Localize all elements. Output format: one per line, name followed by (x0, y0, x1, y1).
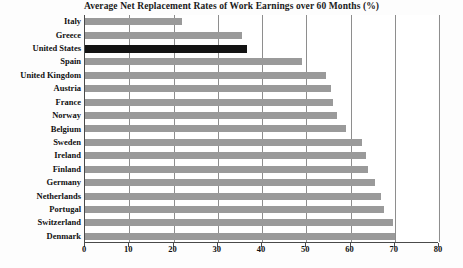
bar-row (85, 69, 438, 82)
x-tick-label: 50 (301, 244, 310, 254)
bar-row (85, 95, 438, 108)
category-label: Switzerland (38, 218, 81, 227)
x-tick-label: 70 (390, 244, 399, 254)
gridline-80 (439, 15, 440, 242)
category-label: France (56, 98, 82, 107)
bar (85, 193, 381, 200)
x-tick-label: 20 (168, 244, 177, 254)
bar-row (85, 216, 438, 229)
bar-row (85, 109, 438, 122)
x-tick-label: 0 (82, 244, 86, 254)
bar-row (85, 189, 438, 202)
bar (85, 166, 368, 173)
bar (85, 206, 384, 213)
bar-row (85, 163, 438, 176)
category-label: Italy (64, 17, 81, 26)
category-label: United Kingdom (20, 71, 81, 80)
bar (85, 125, 346, 132)
category-label: Belgium (51, 125, 81, 134)
bar-row (85, 203, 438, 216)
category-label: Germany (47, 178, 81, 187)
bar (85, 18, 182, 25)
category-label: Ireland (54, 151, 81, 160)
bar-row (85, 42, 438, 55)
category-label: Portugal (49, 205, 81, 214)
bar-rows (85, 15, 438, 242)
bar (85, 58, 302, 65)
bar-row (85, 136, 438, 149)
bar (85, 32, 242, 39)
plot-area (84, 15, 438, 243)
bar (85, 233, 395, 240)
x-tick-label: 40 (257, 244, 266, 254)
x-tick-label: 30 (213, 244, 222, 254)
bar-highlighted (85, 45, 247, 53)
bar-row (85, 176, 438, 189)
category-label: Denmark (47, 232, 81, 241)
bar (85, 179, 375, 186)
category-label: Finland (53, 165, 81, 174)
bar-row (85, 15, 438, 28)
category-label: United States (33, 44, 81, 53)
category-label: Sweden (53, 138, 81, 147)
category-label: Norway (52, 111, 81, 120)
x-tick-label: 10 (124, 244, 133, 254)
category-label: Spain (60, 57, 81, 66)
bar-chart: Average Net Replacement Rates of Work Ea… (0, 0, 463, 268)
bar (85, 219, 393, 226)
bar-row (85, 122, 438, 135)
x-tick-label: 60 (345, 244, 354, 254)
category-label: Netherlands (37, 192, 81, 201)
bar-row (85, 149, 438, 162)
bar (85, 152, 366, 159)
bar (85, 139, 362, 146)
bar (85, 99, 333, 106)
chart-title: Average Net Replacement Rates of Work Ea… (0, 1, 463, 11)
bar-row (85, 230, 438, 243)
bar (85, 112, 337, 119)
bar-row (85, 55, 438, 68)
bar (85, 85, 331, 92)
bar-row (85, 28, 438, 41)
x-tick-label: 80 (434, 244, 443, 254)
category-label: Greece (56, 31, 81, 40)
bar-row (85, 82, 438, 95)
bar (85, 72, 326, 79)
category-label: Austria (54, 84, 81, 93)
